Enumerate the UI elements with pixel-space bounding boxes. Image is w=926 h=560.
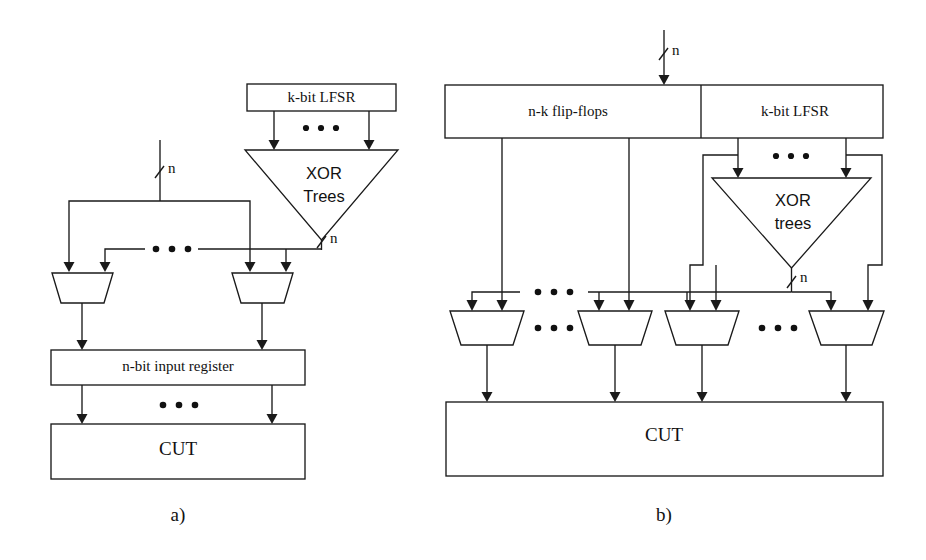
panel-a-mux-1-output-arrow	[77, 340, 88, 350]
panel-a-primary-arrow-left	[64, 262, 75, 272]
panel-b-cut-label: CUT	[645, 424, 683, 445]
block-diagram-svg: k-bit LFSR XOR Trees n n	[0, 0, 926, 560]
panel-b-mux-2[interactable]	[578, 311, 652, 345]
panel-a-register-to-cut-arrow-right	[267, 414, 278, 424]
panel-b-lfsr-bracket-left-arrow	[685, 300, 696, 311]
panel-b: n n-k flip-flops k-bit LFSR XOR trees	[445, 30, 884, 526]
panel-b-mux-1-output-arrow	[482, 392, 493, 402]
panel-a-mux-2[interactable]	[232, 273, 293, 303]
panel-a-mux-bus-arrow-left	[100, 262, 111, 272]
panel-a-mux-bus-arrow-right	[281, 262, 292, 272]
panel-b-xor-output-bus-label: n	[800, 269, 808, 285]
panel-b-ff-drop-2-arrow	[624, 300, 635, 311]
panel-a-primary-arrow-right	[245, 262, 256, 272]
panel-b-xor-tree-label-1: XOR	[775, 191, 811, 209]
panel-b-mux-bus-right-arrow	[826, 300, 837, 311]
panel-a-register-to-cut-ellipsis	[160, 402, 199, 409]
panel-b-ff-drop-1-arrow	[497, 300, 508, 311]
panel-b-lfsr-tap-left-arrow	[733, 168, 744, 178]
panel-a-xor-output-bus-label: n	[330, 230, 338, 246]
panel-a: k-bit LFSR XOR Trees n n	[51, 84, 398, 526]
panel-b-mux-3-output-arrow	[697, 392, 708, 402]
figure-root: k-bit LFSR XOR Trees n n	[0, 0, 926, 560]
panel-b-flip-flops-label: n-k flip-flops	[528, 103, 608, 119]
panel-b-mux-1[interactable]	[450, 311, 524, 345]
panel-b-caption: b)	[656, 504, 672, 526]
panel-a-lfsr-to-xor-ellipsis	[303, 125, 339, 131]
panel-a-input-register-label: n-bit input register	[122, 358, 234, 374]
panel-a-lfsr-arrow-right	[364, 140, 375, 150]
panel-b-mux-4[interactable]	[809, 311, 884, 345]
panel-a-register-to-cut-arrow-left	[77, 414, 88, 424]
panel-b-ff-drop-3-arrow	[711, 300, 722, 311]
panel-a-mux-bus-left-stub	[105, 249, 145, 262]
panel-a-mux-1[interactable]	[52, 273, 113, 303]
panel-a-xor-tree-label-1: XOR	[306, 164, 342, 182]
panel-b-mux-4-output-arrow	[841, 392, 852, 402]
panel-b-lfsr-to-xor-ellipsis	[773, 153, 809, 159]
panel-a-cut-label: CUT	[159, 438, 197, 459]
panel-b-mux-2-output-arrow	[610, 392, 621, 402]
panel-b-mux-bus-right	[792, 292, 832, 300]
panel-b-primary-input-bus-label: n	[672, 42, 680, 58]
panel-b-lfsr-label: k-bit LFSR	[761, 103, 829, 119]
panel-a-lfsr-arrow-left	[269, 140, 280, 150]
panel-b-mux-row-ellipsis-right	[759, 325, 798, 332]
panel-b-mux-row-ellipsis-left	[535, 325, 574, 332]
panel-b-xor-tree-label-2: trees	[775, 214, 812, 232]
panel-a-mux-2-output-arrow	[257, 340, 268, 350]
panel-b-mux-bus-drop-2-arrow	[594, 300, 605, 311]
panel-b-lfsr-bracket-right-arrow	[863, 300, 874, 311]
panel-b-lfsr-tap-right-arrow	[841, 168, 852, 178]
panel-b-mux-bus-ellipsis-left	[535, 289, 574, 296]
panel-b-mux-3[interactable]	[665, 311, 739, 345]
panel-a-primary-input-bus	[69, 201, 250, 262]
panel-b-mux-bus-left-arrow	[467, 300, 478, 311]
panel-a-primary-input-bus-label: n	[168, 160, 176, 176]
panel-b-lfsr-bracket-right	[846, 155, 882, 300]
panel-b-mux-bus-left	[472, 292, 520, 300]
panel-a-mux-bus-ellipsis	[153, 246, 192, 253]
panel-a-xor-tree-label-2: Trees	[303, 187, 345, 205]
panel-b-primary-input-arrow	[659, 75, 670, 85]
panel-a-caption: a)	[171, 504, 186, 526]
panel-a-lfsr-label: k-bit LFSR	[288, 89, 356, 105]
panel-b-lfsr-bracket-left	[690, 155, 738, 300]
